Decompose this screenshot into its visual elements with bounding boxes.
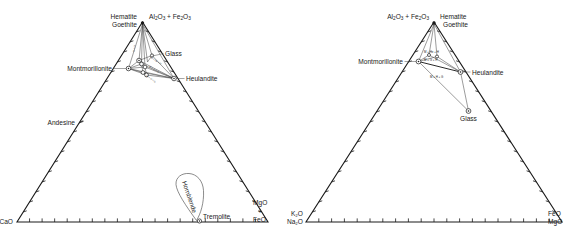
left-apex-hematite-label: Hematite — [111, 13, 138, 20]
right-ternary-panel: M + He + H M + G + H M + H + G Al2O3 + F… — [287, 13, 562, 226]
micro-label-m-he-h: M + He + H — [150, 56, 162, 65]
left-label-glass: Glass — [165, 50, 183, 57]
left-label-heulandite: Heulandite — [186, 75, 218, 82]
right-apex-hematite-label: Hematite — [440, 13, 467, 20]
micro-label-m-h-g: M + H + G — [430, 75, 444, 79]
left-corner-mgo-label: MgO — [253, 199, 267, 207]
micro-label-m-g-h: M + G + H — [148, 65, 159, 74]
right-corner-mgo-label: MgO — [548, 218, 562, 226]
left-label-hornblende: Hornblende — [181, 180, 199, 214]
micro-label-m-he-h: M + He + H — [424, 50, 439, 54]
left-micro-labels: H + M M + He + H M + G + H M + H + G — [133, 45, 162, 83]
left-apex-goethite-label: Goethite — [112, 21, 137, 28]
left-corner-feo-label: FeO — [253, 216, 266, 223]
right-label-heulandite: Heulandite — [472, 69, 504, 76]
right-apex-goethite-label: Goethite — [443, 21, 468, 28]
left-apex-formula-label: Al2O3 + Fe2O3 — [149, 13, 191, 21]
point-marker-apex — [432, 21, 435, 24]
right-label-glass: Glass — [460, 115, 478, 122]
point-marker-apex — [141, 21, 144, 24]
micro-label-h-m: H + M — [133, 45, 137, 52]
left-label-andesine: Andesine — [48, 119, 76, 126]
right-micro-labels: M + He + H M + G + H M + H + G — [424, 50, 444, 79]
micro-label-m-g-h: M + G + H — [424, 58, 437, 62]
left-label-tremolite: Tremolite — [203, 213, 231, 220]
right-corner-k2o-label: K₂O — [291, 210, 303, 217]
left-ternary-panel: H + M M + He + H M + G + H M + H + G Hem… — [0, 13, 268, 226]
right-apex-formula-label: Al2O3 + Fe2O3 — [387, 13, 429, 21]
left-data-points — [79, 21, 202, 223]
ternary-diagram-figure: H + M M + He + H M + G + H M + H + G Hem… — [0, 0, 573, 248]
left-label-montmorillonite: Montmorillonite — [67, 65, 112, 72]
right-corner-na2o-label: Na₂O — [287, 218, 303, 225]
left-corner-plus-label: + — [258, 208, 262, 215]
left-corner-cao-label: CaO — [0, 218, 13, 225]
right-corner-feo-label: FeO — [548, 210, 561, 217]
right-label-montmorillonite: Montmorillonite — [358, 58, 403, 65]
